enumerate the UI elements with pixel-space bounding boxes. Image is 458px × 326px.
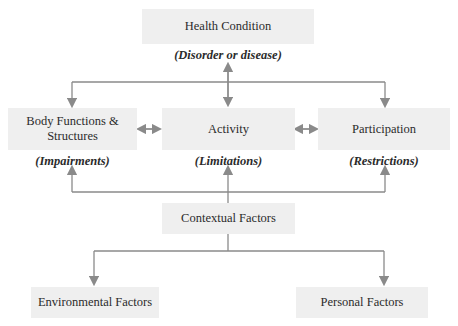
body-functions-label: Body Functions & Structures — [23, 114, 123, 144]
contextual-factors-box: Contextual Factors — [162, 203, 295, 234]
health-condition-box: Health Condition — [142, 9, 314, 44]
activity-sublabel: (Limitations) — [162, 154, 295, 169]
health-condition-sublabel: (Disorder or disease) — [142, 48, 314, 63]
participation-box: Participation — [318, 108, 450, 150]
personal-factors-box: Personal Factors — [296, 287, 428, 318]
body-functions-box: Body Functions & Structures — [8, 108, 137, 150]
participation-label: Participation — [352, 122, 416, 137]
body-functions-sublabel: (Impairments) — [8, 154, 137, 169]
activity-label: Activity — [208, 122, 249, 137]
personal-factors-label: Personal Factors — [321, 295, 404, 310]
activity-box: Activity — [162, 108, 295, 150]
participation-sublabel: (Restrictions) — [318, 154, 450, 169]
environmental-factors-box: Environmental Factors — [31, 287, 159, 318]
contextual-factors-label: Contextual Factors — [181, 211, 276, 226]
health-condition-label: Health Condition — [185, 19, 271, 34]
environmental-factors-label: Environmental Factors — [38, 295, 152, 310]
